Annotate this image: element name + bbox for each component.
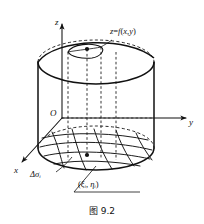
axis-label-y: y — [189, 118, 193, 127]
patch-delta-sigma: Δσ — [30, 169, 39, 179]
patch-area-label: Δσi — [30, 170, 41, 179]
figure-container: z y x O z=f(x,y) Δσi (ξi, ηi) 图 9.2 — [0, 0, 204, 224]
base-grid-v-2 — [72, 129, 86, 170]
axis-label-origin: O — [50, 109, 57, 118]
base-grid-v-3 — [94, 129, 112, 169]
surface-patch-group — [68, 44, 103, 58]
bottom-ellipse-front-arc — [38, 148, 154, 170]
patch-subscript: i — [39, 174, 40, 179]
bottom-ellipse-back-arc — [38, 126, 154, 148]
axis-label-z: z — [55, 18, 59, 27]
sample-point-label: (ξi, ηi) — [78, 180, 99, 189]
base-grid-u-4 — [54, 161, 140, 166]
surface-eq-close-paren: ) — [133, 26, 136, 36]
base-grid-u-1 — [42, 134, 148, 140]
point-comma: , — [86, 179, 88, 189]
diagram-svg — [0, 0, 204, 224]
point-close-paren: ) — [96, 179, 99, 189]
top-ellipse-front-arc — [38, 62, 154, 84]
axis-label-x: x — [14, 166, 18, 175]
base-grid-v-5 — [136, 133, 152, 160]
surface-equation-label: z=f(x,y) — [110, 27, 136, 36]
figure-caption: 图 9.2 — [0, 204, 204, 217]
base-sample-point — [85, 153, 89, 157]
